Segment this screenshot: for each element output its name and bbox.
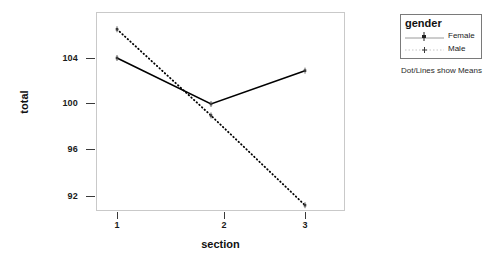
x-tick-mark-2 <box>224 212 225 219</box>
y-tick-mark-104 <box>86 58 95 59</box>
x-tick-label-3: 3 <box>290 220 320 230</box>
legend-title: gender <box>405 17 442 29</box>
x-tick-label-1: 1 <box>102 220 132 230</box>
legend-footnote: Dot/Lines show Means <box>401 66 482 75</box>
x-tick-label-2: 2 <box>209 220 239 230</box>
y-tick-label-104: 104 <box>38 53 78 63</box>
legend-key-male-dotted-line-icon <box>404 44 446 55</box>
y-tick-label-96: 96 <box>38 144 78 154</box>
plot-area-frame <box>96 12 345 211</box>
y-tick-mark-96 <box>86 149 95 150</box>
y-tick-mark-100 <box>86 103 95 104</box>
y-tick-label-92: 92 <box>38 191 78 201</box>
legend-key-female-solid-line-icon <box>404 31 446 42</box>
chart-canvas: 104 100 96 92 total 1 2 3 section gender… <box>0 0 496 272</box>
legend-label-female: Female <box>448 31 475 40</box>
y-tick-label-100: 100 <box>38 98 78 108</box>
x-axis-title: section <box>96 238 345 250</box>
y-tick-mark-92 <box>86 196 95 197</box>
y-axis-title: total <box>18 72 30 132</box>
x-tick-mark-1 <box>117 212 118 219</box>
x-tick-mark-3 <box>305 212 306 219</box>
legend-label-male: Male <box>448 44 465 53</box>
